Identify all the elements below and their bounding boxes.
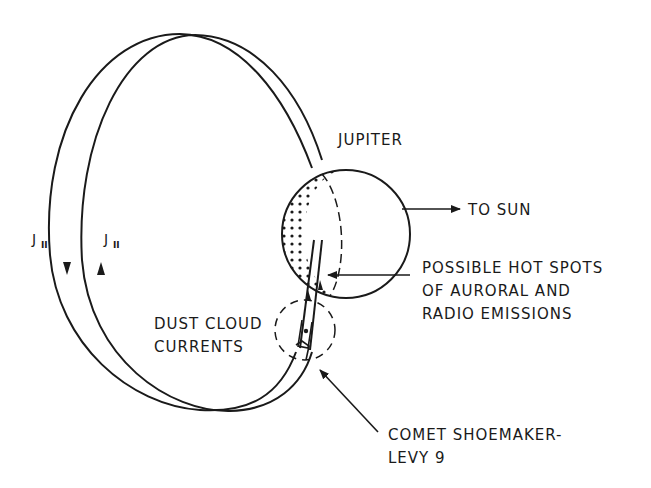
comet-arrow-icon bbox=[320, 370, 378, 432]
label-hot-spots-line3: RADIO EMISSIONS bbox=[422, 305, 572, 323]
jupiter-dust-current-diagram: JUPITER TO SUN POSSIBLE HOT SPOTS OF AUR… bbox=[0, 0, 651, 488]
jupiter-planet bbox=[282, 170, 410, 298]
current-arrow-up-icon bbox=[97, 262, 105, 275]
svg-text:II: II bbox=[41, 240, 48, 250]
label-current-outer: J II bbox=[31, 231, 48, 250]
label-current-inner: J II bbox=[103, 231, 120, 250]
label-dust-cloud-line1: DUST CLOUD bbox=[154, 315, 263, 333]
label-comet-line1: COMET SHOEMAKER- bbox=[388, 426, 562, 444]
label-hot-spots-line2: OF AURORAL AND bbox=[422, 282, 571, 300]
label-jupiter: JUPITER bbox=[337, 131, 403, 149]
svg-text:J: J bbox=[103, 231, 108, 247]
svg-text:II: II bbox=[113, 240, 120, 250]
label-comet-line2: LEVY 9 bbox=[388, 449, 446, 467]
label-dust-cloud-line2: CURRENTS bbox=[154, 338, 244, 356]
label-to-sun: TO SUN bbox=[467, 201, 531, 219]
label-hot-spots-line1: POSSIBLE HOT SPOTS bbox=[422, 259, 603, 277]
current-arrow-down-icon bbox=[63, 262, 71, 275]
svg-text:J: J bbox=[31, 231, 36, 247]
